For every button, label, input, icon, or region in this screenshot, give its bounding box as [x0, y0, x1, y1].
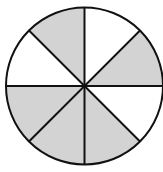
fraction-circle-diagram — [0, 0, 163, 172]
center-point — [83, 84, 87, 88]
